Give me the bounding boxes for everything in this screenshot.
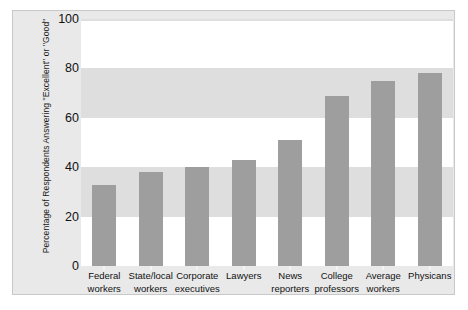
x-tick-label-line: reporters bbox=[267, 283, 314, 296]
x-tick-label-line: professors bbox=[314, 283, 361, 296]
y-axis-tick-labels: 020406080100 bbox=[39, 11, 79, 296]
x-tick-label-line: News bbox=[267, 270, 314, 283]
bar bbox=[139, 172, 163, 266]
y-tick-label: 20 bbox=[45, 210, 79, 224]
x-tick-label-line: executives bbox=[174, 283, 221, 296]
bar bbox=[92, 185, 116, 267]
y-tick-label: 80 bbox=[45, 61, 79, 75]
y-tick-label: 60 bbox=[45, 111, 79, 125]
x-tick-label-line: College bbox=[314, 270, 361, 283]
bar bbox=[418, 73, 442, 266]
bar bbox=[232, 160, 256, 266]
x-tick-label: Physicans bbox=[407, 270, 454, 283]
grid-band bbox=[81, 167, 453, 216]
bar bbox=[371, 81, 395, 266]
x-tick-label: Collegeprofessors bbox=[314, 270, 361, 295]
bar bbox=[325, 96, 349, 266]
x-tick-label-line: Lawyers bbox=[221, 270, 268, 283]
x-tick-label-line: Physicans bbox=[407, 270, 454, 283]
bar bbox=[278, 140, 302, 266]
x-tick-label-line: workers bbox=[81, 283, 128, 296]
x-tick-label: Federalworkers bbox=[81, 270, 128, 295]
grid-band bbox=[81, 19, 453, 21]
chart-panel: Percentage of Respondents Answering "Exc… bbox=[12, 10, 455, 295]
bar bbox=[185, 167, 209, 266]
y-tick-label: 100 bbox=[45, 12, 79, 26]
grid-band bbox=[81, 68, 453, 117]
x-tick-label: Averageworkers bbox=[360, 270, 407, 295]
x-tick-label-line: workers bbox=[128, 283, 175, 296]
x-tick-label: Corporateexecutives bbox=[174, 270, 221, 295]
chart-figure: Percentage of Respondents Answering "Exc… bbox=[0, 0, 468, 310]
x-tick-label-line: State/local bbox=[128, 270, 175, 283]
y-tick-label: 40 bbox=[45, 160, 79, 174]
x-axis-tick-labels: FederalworkersState/localworkersCorporat… bbox=[81, 270, 453, 304]
x-tick-label-line: Average bbox=[360, 270, 407, 283]
x-tick-label-line: Corporate bbox=[174, 270, 221, 283]
x-tick-label: Newsreporters bbox=[267, 270, 314, 295]
x-tick-label-line: workers bbox=[360, 283, 407, 296]
x-tick-label: State/localworkers bbox=[128, 270, 175, 295]
x-tick-label-line: Federal bbox=[81, 270, 128, 283]
plot-area bbox=[81, 19, 453, 266]
x-tick-label: Lawyers bbox=[221, 270, 268, 283]
y-tick-label: 0 bbox=[45, 259, 79, 273]
